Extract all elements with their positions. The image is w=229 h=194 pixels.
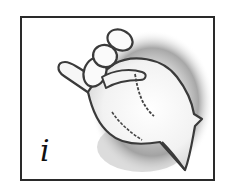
sign-letter-card: i [20, 16, 215, 181]
letter-label: i [40, 136, 50, 166]
